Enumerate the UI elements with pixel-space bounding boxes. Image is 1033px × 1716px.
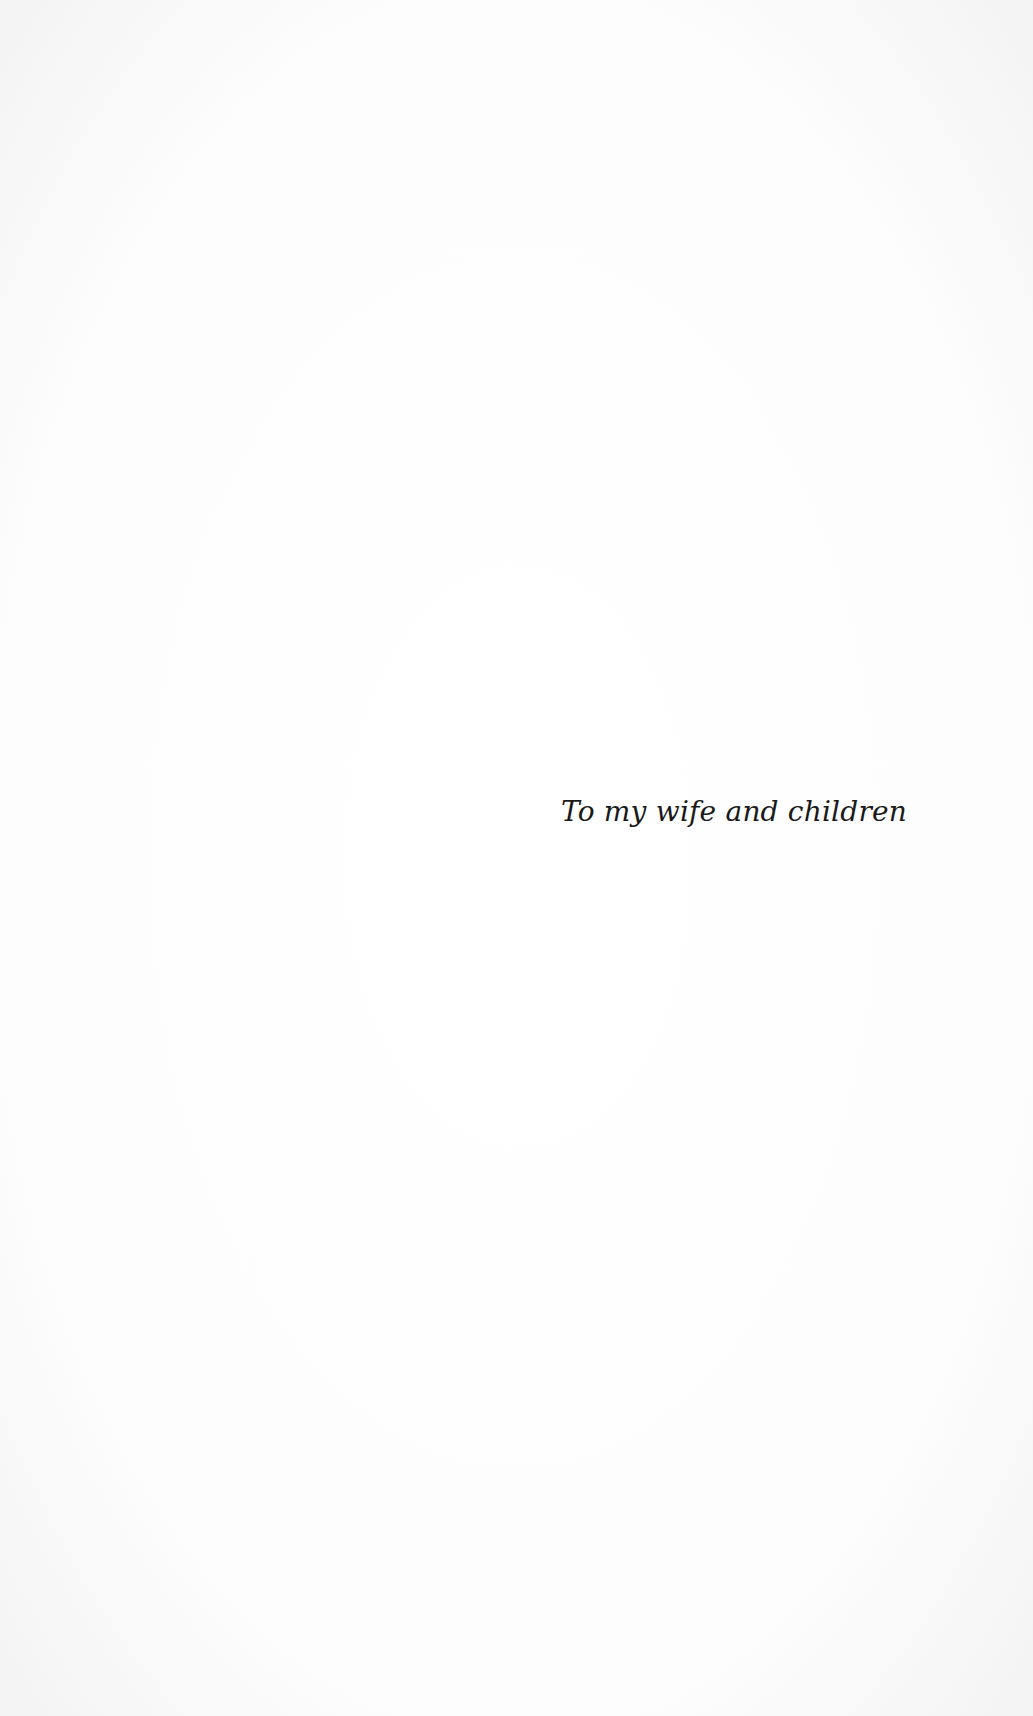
book-page: To my wife and children <box>0 0 1033 1716</box>
dedication-text: To my wife and children <box>561 795 907 828</box>
